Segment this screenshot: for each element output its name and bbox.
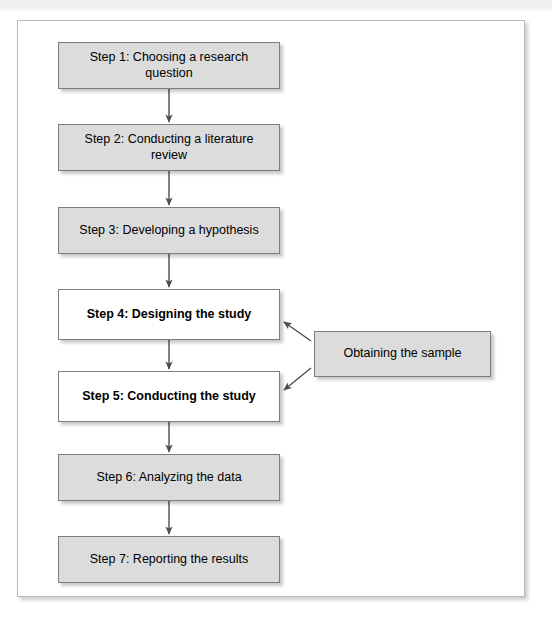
flow-node-step4[interactable]: Step 4: Designing the study	[58, 289, 280, 340]
flowchart: Step 1: Choosing a research question Ste…	[18, 21, 524, 596]
flow-node-step2[interactable]: Step 2: Conducting a literature review	[58, 124, 280, 171]
flow-node-step7[interactable]: Step 7: Reporting the results	[58, 536, 280, 583]
flow-node-step6[interactable]: Step 6: Analyzing the data	[58, 454, 280, 501]
flow-node-step3[interactable]: Step 3: Developing a hypothesis	[58, 207, 280, 254]
figure-frame: Step 1: Choosing a research question Ste…	[17, 20, 525, 597]
flow-node-step1[interactable]: Step 1: Choosing a research question	[58, 42, 280, 89]
flow-node-obtaining-the-sample[interactable]: Obtaining the sample	[314, 331, 491, 377]
page-header-strip	[0, 0, 552, 11]
flow-node-step5[interactable]: Step 5: Conducting the study	[58, 371, 280, 422]
